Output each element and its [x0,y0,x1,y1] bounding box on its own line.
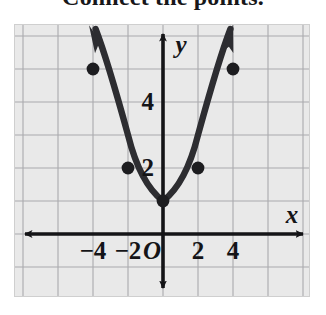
x-axis-label: x [285,201,299,228]
x-tick-label-2: 2 [192,237,205,264]
y-tick-label-2: 2 [142,154,155,181]
y-tick-label-4: 4 [142,88,155,115]
point-minus2-5 [87,63,100,76]
point-0-1 [157,195,170,208]
coordinate-plane-svg: −4 −2 2 4 O 2 4 y x [15,25,309,296]
figure-root: Connect the points. [0,0,326,315]
point-1-2 [192,162,205,175]
point-2-5 [227,63,240,76]
x-tick-label-minus2: −2 [115,237,142,264]
graph-frame: −4 −2 2 4 O 2 4 y x [14,24,310,297]
y-axis-label: y [172,31,187,58]
heading-clip: Connect the points. [0,0,326,13]
x-tick-label-4: 4 [227,237,240,264]
page-title: Connect the points. [62,0,264,11]
x-tick-label-minus4: −4 [80,237,107,264]
point-minus1-2 [122,162,135,175]
origin-label: O [143,237,161,264]
